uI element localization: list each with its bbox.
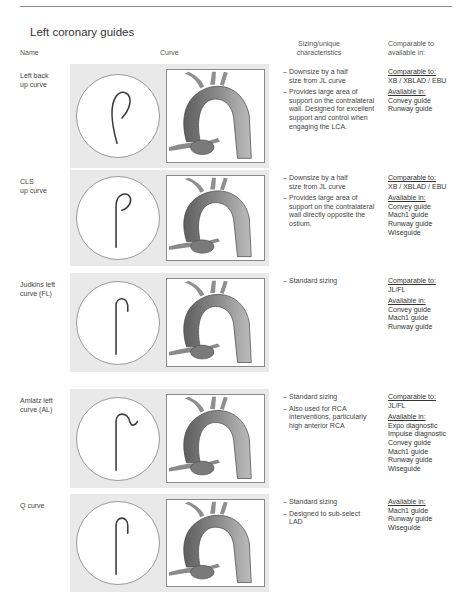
column-header-comparable: Comparable to available in: [388, 40, 434, 57]
column-header-curve: Curve [160, 49, 179, 58]
available-product: Mach1 guide [388, 211, 468, 220]
guide-name-line2: up curve [20, 81, 68, 90]
available-label: Available in: [388, 498, 468, 507]
comparable-label: Comparable to: [388, 277, 468, 286]
characteristic-line: Designed to sub-select [289, 510, 360, 519]
guide-name-line2: curve (FL) [20, 290, 68, 299]
characteristic-item: –Also used for RCAinterventions, particu… [283, 405, 383, 431]
characteristic-line: Downsize by a half [289, 68, 348, 77]
availability-info: Comparable to: JL/FL Available in:Expo d… [388, 393, 468, 476]
characteristic-line: Downsize by a half [289, 174, 348, 183]
characteristic-item: –Provides large area ofsupport on the co… [283, 88, 383, 131]
guide-name-line1: CLS [20, 178, 68, 187]
column-header-name: Name [20, 49, 39, 58]
characteristic-line: size from JL curve [289, 183, 348, 192]
available-product: Wiseguide [388, 524, 468, 533]
comparable-block: Comparable to: JL/FL [388, 393, 468, 410]
available-product: Convey guide [388, 203, 468, 212]
catheter-curve-icon [76, 397, 160, 481]
guide-name-line1: Q curve [20, 502, 68, 511]
comparable-block: Comparable to: JL/FL [388, 277, 468, 294]
characteristics-list: –Standard sizing–Also used for RCAinterv… [283, 393, 383, 433]
characteristic-line: engaging the LCA. [289, 123, 374, 132]
comparable-label: Comparable to: [388, 174, 468, 183]
characteristic-line: Standard sizing [289, 498, 337, 507]
available-label: Available in: [388, 194, 468, 203]
catheter-curve-icon [76, 281, 160, 365]
available-product: Convey guide [388, 97, 468, 106]
catheter-curve-icon [76, 501, 160, 585]
available-block: Available in:Convey guideMach1 guideRunw… [388, 297, 468, 331]
available-block: Available in:Mach1 guideRunway guideWise… [388, 498, 468, 532]
comparable-value: JL/FL [388, 402, 468, 411]
column-header-comparable-line1: Comparable to [388, 40, 434, 49]
guide-name: Judkins left curve (FL) [20, 281, 68, 298]
aortic-arch-illustration-icon [166, 69, 265, 163]
curve-illustration-panel [70, 170, 269, 266]
column-header-sizing: Sizing/unique characteristics [287, 40, 351, 57]
characteristic-line: support on the contralateral [289, 203, 374, 212]
aortic-arch-illustration-icon [166, 394, 265, 483]
guide-name: Amlatz left curve (AL) [20, 397, 68, 414]
availability-info: Comparable to: XB / XBLAD / EBU Availabl… [388, 68, 468, 117]
characteristic-line: support and control when [289, 114, 374, 123]
guide-name-line2: curve (AL) [20, 406, 68, 415]
comparable-value: XB / XBLAD / EBU [388, 183, 468, 192]
availability-info: Available in:Mach1 guideRunway guideWise… [388, 498, 468, 535]
aortic-arch-illustration-icon [166, 278, 265, 367]
available-product: Runway guide [388, 456, 468, 465]
available-label: Available in: [388, 88, 468, 97]
availability-info: Comparable to: XB / XBLAD / EBU Availabl… [388, 174, 468, 240]
characteristics-list: –Downsize by a halfsize from JL curve–Pr… [283, 68, 383, 134]
comparable-value: JL/FL [388, 286, 468, 295]
characteristic-line: LAD [289, 518, 360, 527]
column-header-comparable-line2: available in: [388, 49, 434, 58]
characteristic-line: Provides large area of [289, 194, 374, 203]
header-rule [20, 6, 452, 7]
characteristic-item: –Provides large area ofsupport on the co… [283, 194, 383, 228]
comparable-label: Comparable to: [388, 393, 468, 402]
section-title: Left coronary guides [30, 26, 134, 38]
characteristic-line: Standard sizing [289, 277, 337, 286]
available-product: Runway guide [388, 105, 468, 114]
catheter-curve-icon [76, 74, 160, 158]
characteristic-item: –Standard sizing [283, 393, 383, 402]
characteristic-item: –Downsize by a halfsize from JL curve [283, 68, 383, 85]
characteristic-line: Provides large area of [289, 88, 374, 97]
available-product: Runway guide [388, 220, 468, 229]
curve-illustration-panel [70, 389, 269, 488]
comparable-block: Comparable to: XB / XBLAD / EBU [388, 174, 468, 191]
available-label: Available in: [388, 297, 468, 306]
guide-name: Q curve [20, 502, 68, 511]
catheter-curve-icon [76, 176, 160, 260]
guide-name: Left back up curve [20, 72, 68, 89]
curve-illustration-panel [70, 494, 269, 592]
characteristic-line: support on the contralateral [289, 97, 374, 106]
available-product: Runway guide [388, 323, 468, 332]
guide-name-line1: Left back [20, 72, 68, 81]
guide-row: Left back up curve [0, 64, 469, 168]
characteristic-line: ostium. [289, 220, 374, 229]
guide-name-line1: Amlatz left [20, 397, 68, 406]
characteristics-list: –Standard sizing–Designed to sub-selectL… [283, 498, 383, 530]
column-header-sizing-line1: Sizing/unique [287, 40, 351, 49]
available-block: Available in:Convey guideRunway guide [388, 88, 468, 114]
guide-row: CLS up curve [0, 170, 469, 266]
available-label: Available in: [388, 413, 468, 422]
characteristic-line: wall. Designed for excellent [289, 105, 374, 114]
characteristic-item: –Downsize by a halfsize from JL curve [283, 174, 383, 191]
available-product: Mach1 guide [388, 448, 468, 457]
aortic-arch-illustration-icon [166, 499, 265, 587]
available-product: Convey guide [388, 439, 468, 448]
available-product: Wiseguide [388, 465, 468, 474]
characteristic-item: –Standard sizing [283, 277, 383, 286]
guide-row: Q curve – [0, 494, 469, 592]
characteristic-item: –Standard sizing [283, 498, 383, 507]
column-header-sizing-line2: characteristics [287, 49, 351, 58]
characteristic-line: wall directly opposite the [289, 211, 374, 220]
characteristic-line: Also used for RCA [289, 405, 366, 414]
guide-row: Judkins left curve (FL) [0, 273, 469, 372]
characteristic-line: size from JL curve [289, 77, 348, 86]
available-product: Convey guide [388, 306, 468, 315]
comparable-value: XB / XBLAD / EBU [388, 77, 468, 86]
